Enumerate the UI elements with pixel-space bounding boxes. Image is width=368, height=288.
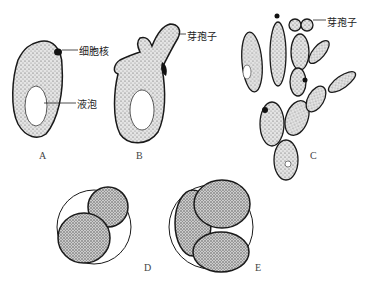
cell-b (114, 24, 186, 143)
panel-label-a: A (39, 150, 46, 161)
panel-label-b: B (136, 150, 143, 161)
vacuole-b (130, 90, 154, 130)
nucleus-a (54, 49, 62, 56)
vacuole-a (25, 86, 47, 126)
label-bud-b: 芽孢子 (187, 28, 217, 43)
cell-c (239, 14, 358, 181)
label-nucleus: 细胞核 (79, 43, 109, 58)
cell-a (13, 41, 78, 137)
ascus-e (169, 180, 253, 272)
label-vacuole: 液泡 (77, 96, 97, 111)
label-bud-c: 芽孢子 (327, 14, 357, 29)
panel-label-d: D (144, 262, 151, 273)
ascus-d (57, 187, 131, 264)
panel-label-c: C (310, 150, 317, 161)
yeast-diagram (0, 0, 368, 288)
panel-label-e: E (255, 262, 261, 273)
